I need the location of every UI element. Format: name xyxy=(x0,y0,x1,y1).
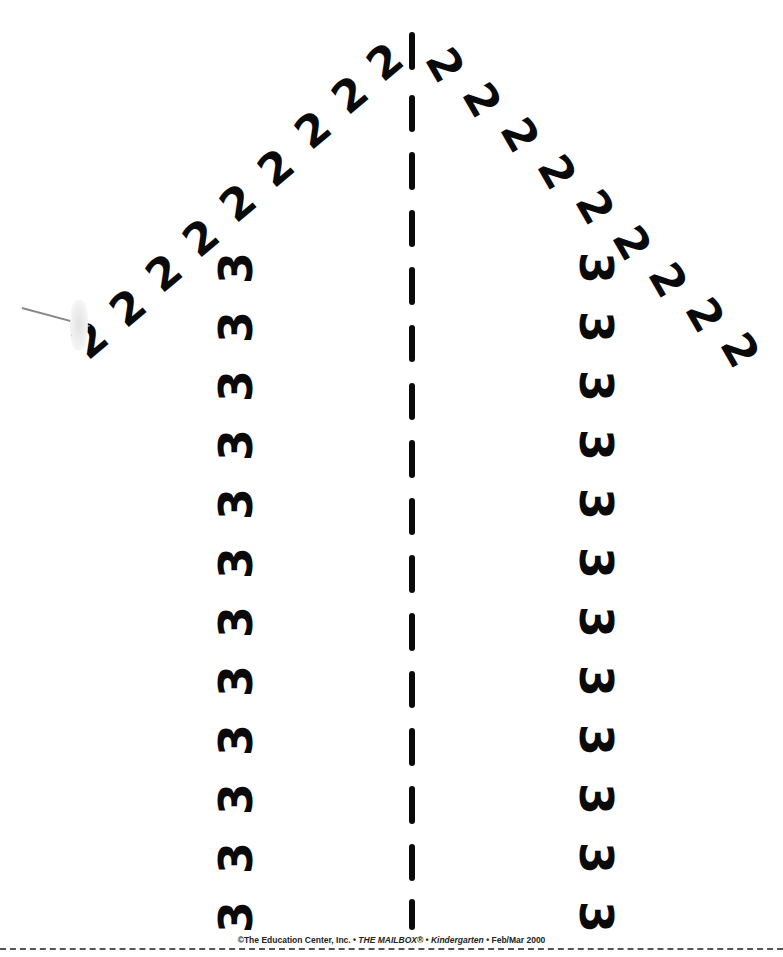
digit-three: 3 xyxy=(571,656,621,706)
digit-three: 3 xyxy=(211,597,261,647)
digit-three: 3 xyxy=(571,833,621,883)
center-line-dash xyxy=(409,152,415,190)
center-line-dash xyxy=(409,32,415,70)
center-line-dash xyxy=(409,267,415,305)
copyright-text: ©The Education Center, Inc. • xyxy=(238,935,359,945)
center-line-dash xyxy=(409,671,415,708)
digit-three: 3 xyxy=(211,479,261,529)
center-line-dash xyxy=(409,786,415,824)
digit-three: 3 xyxy=(211,302,261,352)
center-line-dash xyxy=(409,440,415,478)
center-line-dash xyxy=(409,613,415,651)
cut-line-dashed xyxy=(0,948,783,950)
center-line-dash xyxy=(409,899,415,930)
digit-three: 3 xyxy=(211,361,261,411)
center-line-dash xyxy=(409,95,415,132)
digit-three: 3 xyxy=(211,715,261,765)
copyright-footer: ©The Education Center, Inc. • THE MAILBO… xyxy=(0,935,783,945)
digit-three: 3 xyxy=(211,538,261,588)
digit-three: 3 xyxy=(571,243,621,293)
issue-date: • Feb/Mar 2000 xyxy=(484,935,546,945)
digit-three: 3 xyxy=(211,656,261,706)
center-line-dash xyxy=(409,383,415,420)
magazine-title: THE MAILBOX® • Kindergarten xyxy=(358,935,483,945)
digit-three: 3 xyxy=(211,420,261,470)
center-line-dash xyxy=(409,210,415,247)
digit-three: 3 xyxy=(571,715,621,765)
digit-three: 3 xyxy=(571,302,621,352)
digit-three: 3 xyxy=(571,538,621,588)
digit-three: 3 xyxy=(211,243,261,293)
digit-three: 3 xyxy=(571,420,621,470)
center-line-dash xyxy=(409,728,415,766)
eraser-smudge xyxy=(70,300,88,350)
digit-three: 3 xyxy=(211,774,261,824)
center-line-dash xyxy=(409,844,415,881)
digit-three: 3 xyxy=(571,479,621,529)
center-line-dash xyxy=(409,498,415,535)
digit-three: 3 xyxy=(571,361,621,411)
center-line-dash xyxy=(409,325,415,362)
digit-three: 3 xyxy=(571,774,621,824)
digit-three: 3 xyxy=(571,597,621,647)
digit-three: 3 xyxy=(211,833,261,883)
center-line-dash xyxy=(409,555,415,593)
